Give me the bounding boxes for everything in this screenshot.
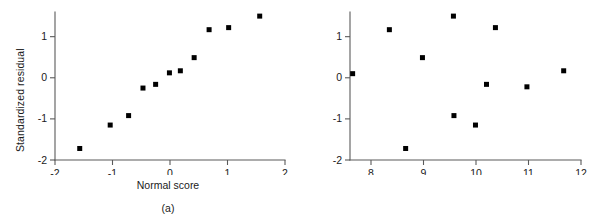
data-point [226,25,231,30]
data-point [493,25,498,30]
panel-normal-probability-plot: 10-1-2-2-1012 Standardized residual Norm… [0,0,300,224]
data-point [140,86,145,91]
data-point [451,113,456,118]
svg-text:0: 0 [336,71,342,83]
data-point [192,55,197,60]
data-point [524,84,529,89]
data-point [473,123,478,128]
svg-text:0: 0 [167,167,173,175]
svg-text:0: 0 [41,71,47,83]
data-point [257,14,262,19]
svg-text:12: 12 [575,167,587,175]
y-axis-label-a: Standardized residual [14,48,26,152]
data-point [484,82,489,87]
svg-text:-1: -1 [38,112,47,124]
data-point [207,27,212,32]
svg-text:2: 2 [282,167,288,175]
svg-text:-1: -1 [108,167,117,175]
svg-text:9: 9 [421,167,427,175]
x-axis-label-a: Normal score [0,179,300,191]
data-point [350,71,355,76]
data-point [77,146,82,151]
data-point [561,68,566,73]
svg-text:1: 1 [41,30,47,42]
svg-text:11: 11 [523,167,534,175]
residual-plots-figure: 10-1-2-2-1012 Standardized residual Norm… [0,0,603,224]
data-point [108,123,113,128]
svg-text:1: 1 [336,30,342,42]
panel-caption-a: (a) [0,202,300,214]
data-point [126,113,131,118]
data-point [420,55,425,60]
scatter-plot-b: 10-1-289101112 [300,0,603,175]
data-point [167,70,172,75]
data-point [387,27,392,32]
svg-text:-2: -2 [333,154,342,166]
data-point [178,68,183,73]
data-point [403,146,408,151]
svg-text:8: 8 [368,167,374,175]
svg-text:1: 1 [225,167,231,175]
panel-residual-vs-treadmill-time: 10-1-289101112 Standardized residual Tre… [300,0,603,224]
data-point [153,82,158,87]
svg-text:10: 10 [470,167,482,175]
svg-text:-2: -2 [38,154,47,166]
svg-text:-1: -1 [333,112,342,124]
data-point [451,14,456,19]
svg-text:-2: -2 [50,167,59,175]
scatter-plot-a: 10-1-2-2-1012 [0,0,300,175]
